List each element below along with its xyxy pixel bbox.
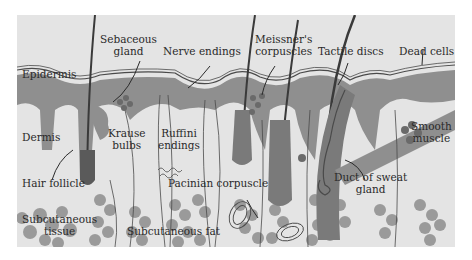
label-subcutaneous-tissue: Subcutaneoustissue	[22, 213, 97, 237]
label-dermis: Dermis	[22, 131, 60, 143]
label-meissners-corpuscles: Meissner'scorpuscles	[255, 33, 312, 57]
label-epidermis: Epidermis	[22, 68, 76, 80]
skin-cross-section-figure: Sebaceousgland Nerve endings Meissner'sc…	[0, 0, 472, 260]
label-duct-of-sweat-gland: Duct of sweatgland	[334, 171, 407, 195]
label-smooth-muscle: Smoothmuscle	[411, 120, 452, 144]
label-pacinian-corpuscle: Pacinian corpuscle	[168, 177, 268, 189]
label-ruffini-endings: Ruffiniendings	[158, 127, 200, 151]
label-subcutaneous-fat: Subcutaneous fat	[127, 225, 220, 237]
label-tactile-discs: Tactile discs	[318, 45, 384, 57]
label-krause-bulbs: Krausebulbs	[108, 127, 146, 151]
label-nerve-endings: Nerve endings	[163, 45, 241, 57]
label-hair-follicle: Hair follicle	[22, 177, 85, 189]
label-sebaceous-gland: Sebaceousgland	[100, 33, 157, 57]
label-dead-cells: Dead cells	[399, 45, 454, 57]
